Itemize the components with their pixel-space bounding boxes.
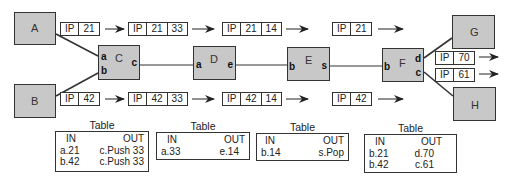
- node-label: A: [31, 22, 38, 34]
- port-b: b: [384, 61, 390, 72]
- port-d: d: [415, 53, 421, 64]
- routing-table-f: INOUT b.21d.70 b.42c.61: [364, 134, 457, 173]
- cell-in: a.33: [161, 146, 180, 158]
- packet-field: IP: [129, 23, 147, 35]
- table-title: Table: [156, 120, 250, 132]
- packet-field: 21: [79, 23, 98, 35]
- cell-in: b.14: [261, 147, 280, 159]
- table-header: INOUT: [369, 136, 452, 148]
- port-c: c: [415, 67, 421, 78]
- table-title: Table: [55, 119, 149, 131]
- cell-in: b.42: [369, 159, 388, 171]
- packet-field: IP: [61, 23, 79, 35]
- table-header: INOUT: [161, 134, 245, 146]
- node-c: C a b c: [98, 45, 140, 80]
- col-in: IN: [369, 136, 385, 148]
- port-s: s: [321, 60, 327, 71]
- packet-field: 42: [241, 93, 261, 105]
- col-out: OUT: [323, 135, 344, 147]
- table-row: b.42c.61: [369, 159, 452, 171]
- node-label: C: [115, 52, 123, 64]
- port-b: b: [289, 61, 295, 72]
- node-label: H: [471, 99, 479, 111]
- node-label: G: [470, 26, 479, 38]
- packet-field: IP: [436, 69, 454, 81]
- packet-field: 42: [147, 93, 167, 105]
- packet-field: IP: [333, 23, 351, 35]
- node-a: A: [14, 12, 56, 45]
- col-out: OUT: [224, 134, 245, 146]
- packet-field: 33: [168, 93, 187, 105]
- packet-field: 14: [262, 23, 281, 35]
- packet-field: 21: [147, 23, 167, 35]
- col-in: IN: [60, 133, 76, 145]
- cell-out: c.Push 33: [100, 145, 144, 157]
- routing-table-c: INOUT a.21c.Push 33 b.42c.Push 33: [55, 131, 149, 172]
- node-label: D: [210, 53, 218, 65]
- cell-out: d.70: [415, 148, 452, 160]
- packet: IP 21: [332, 22, 372, 36]
- packet-field: IP: [129, 93, 147, 105]
- table-row: b.14s.Pop: [261, 147, 344, 159]
- table-row: b.21d.70: [369, 148, 452, 160]
- node-g: G: [452, 15, 495, 49]
- node-label: E: [305, 54, 312, 66]
- packet-field: 14: [262, 93, 281, 105]
- node-e: E b s: [287, 47, 330, 81]
- port-e: e: [227, 59, 233, 70]
- packet: IP 42 14: [222, 92, 282, 106]
- node-f: F b d c: [382, 48, 424, 82]
- table-title: Table: [256, 121, 349, 133]
- packet: IP 42 33: [128, 92, 188, 106]
- node-d: D a e: [193, 46, 236, 80]
- packet-field: 70: [454, 52, 473, 64]
- packet-field: 42: [79, 93, 98, 105]
- routing-table-d: INOUT a.33e.14: [156, 132, 250, 160]
- packet: IP 42: [60, 92, 100, 106]
- node-h: H: [453, 87, 496, 121]
- cell-out: c.61: [415, 159, 452, 171]
- table-row: b.42c.Push 33: [60, 156, 144, 168]
- node-b: B: [14, 84, 56, 118]
- cell-in: b.42: [60, 156, 79, 168]
- packet: IP 42: [332, 92, 372, 106]
- port-c: c: [131, 57, 137, 68]
- table-row: a.21c.Push 33: [60, 145, 144, 157]
- packet-field: 33: [168, 23, 187, 35]
- col-in: IN: [161, 134, 177, 146]
- routing-table-e: INOUT b.14s.Pop: [256, 133, 349, 161]
- col-out: OUT: [123, 133, 144, 145]
- cell-in: a.21: [60, 145, 79, 157]
- node-label: F: [399, 57, 406, 69]
- port-a: a: [101, 51, 107, 62]
- table-row: a.33e.14: [161, 146, 245, 158]
- packet-out-c: IP 61: [435, 68, 475, 82]
- cell-out: s.Pop: [318, 147, 344, 159]
- packet-field: IP: [436, 52, 454, 64]
- packet-field: IP: [223, 23, 241, 35]
- packet-field: 21: [351, 23, 370, 35]
- table-header: INOUT: [60, 133, 144, 145]
- packet-field: IP: [333, 93, 351, 105]
- table-header: INOUT: [261, 135, 344, 147]
- cell-out: e.14: [220, 146, 245, 158]
- packet: IP 21 14: [222, 22, 282, 36]
- packet-field: 61: [454, 69, 473, 81]
- cell-out: c.Push 33: [100, 156, 144, 168]
- port-a: a: [196, 59, 202, 70]
- packet-field: IP: [61, 93, 79, 105]
- packet: IP 21 33: [128, 22, 188, 36]
- table-title: Table: [364, 122, 457, 134]
- packet-out-d: IP 70: [435, 51, 475, 65]
- cell-in: b.21: [369, 148, 388, 160]
- packet: IP 21: [60, 22, 100, 36]
- packet-field: 42: [351, 93, 370, 105]
- packet-field: 21: [241, 23, 261, 35]
- col-out: OUT: [421, 136, 452, 148]
- node-label: B: [31, 95, 38, 107]
- col-in: IN: [261, 135, 275, 147]
- port-b: b: [101, 65, 107, 76]
- packet-field: IP: [223, 93, 241, 105]
